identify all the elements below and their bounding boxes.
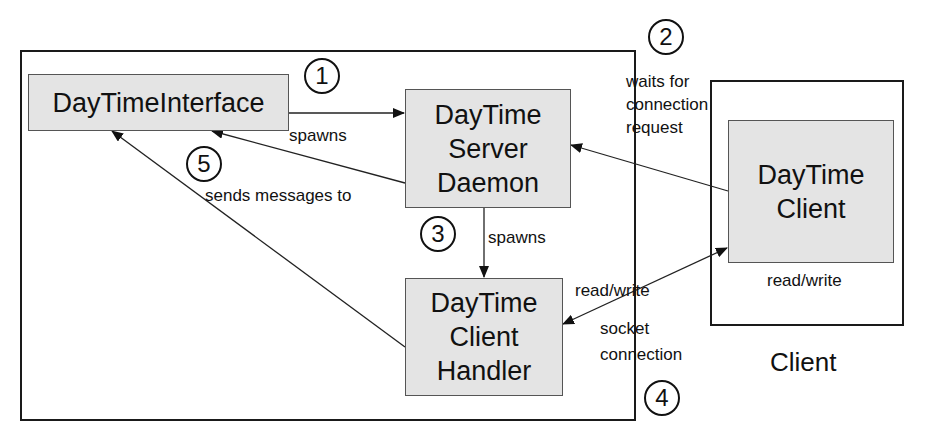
node-label: Client [776,192,845,226]
node-daytime-interface: DayTimeInterface [28,74,289,131]
node-label: DayTime [434,98,541,132]
node-label: Server [448,132,528,166]
node-client-handler: DayTime Client Handler [405,278,563,396]
step-4-badge: 4 [644,380,680,416]
label-spawns-handler: spawns [488,227,546,248]
label-sends-messages: sends messages to [205,185,351,206]
step-number: 5 [197,150,210,178]
step-number: 1 [315,62,328,90]
node-label: Handler [437,354,532,388]
node-label: DayTime [757,158,864,192]
node-label: Client [449,320,518,354]
label-spawns-daemon: spawns [289,125,347,146]
step-3-badge: 3 [420,216,456,252]
label-socket: socket [600,318,649,339]
step-5-badge: 5 [186,146,222,182]
arrow-client-to-daemon [571,145,728,191]
step-number: 2 [659,23,672,51]
step-number: 3 [431,220,444,248]
label-waits-for-3: request [626,117,683,138]
step-number: 4 [655,384,668,412]
label-read-write-client: read/write [767,270,842,291]
label-read-write-server: read/write [575,280,650,301]
label-waits-for-1: waits for [626,71,689,92]
step-1-badge: 1 [304,58,340,94]
client-container-label: Client [770,347,836,378]
node-label: DayTime [430,286,537,320]
node-label: DayTimeInterface [52,86,264,120]
label-connection: connection [600,344,682,365]
label-waits-for-2: connection [626,94,708,115]
node-label: Daemon [437,166,539,200]
node-daytime-client: DayTime Client [728,120,894,263]
step-2-badge: 2 [648,19,684,55]
node-server-daemon: DayTime Server Daemon [405,89,571,208]
arrow-handler-to-interface [112,131,405,347]
